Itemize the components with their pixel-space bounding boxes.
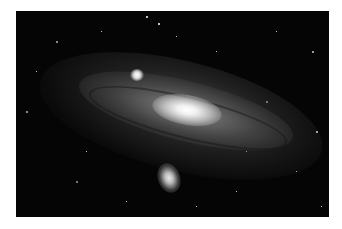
satellite-galaxy-m32 — [130, 69, 144, 81]
galaxy-photo — [16, 11, 329, 217]
